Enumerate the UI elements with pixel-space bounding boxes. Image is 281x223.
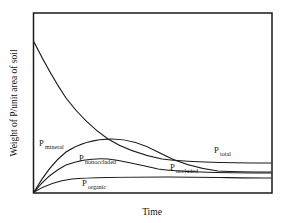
label-p-mineral-base: P — [39, 138, 44, 148]
label-p-total-base: P — [214, 145, 219, 155]
label-p-mineral-sub: mineral — [45, 144, 64, 150]
label-p-occluded-sub: occluded — [176, 168, 198, 174]
figure-background — [0, 0, 281, 223]
y-axis-label: Weight of P/unit area of soil — [9, 49, 19, 157]
label-p-nonoccluded-sub: nonoccluded — [85, 159, 116, 165]
label-p-organic-sub: organic — [88, 184, 106, 190]
label-p-nonoccluded-base: P — [79, 153, 84, 163]
label-p-total-sub: total — [220, 151, 231, 157]
label-p-occluded-base: P — [170, 162, 175, 172]
label-p-organic-base: P — [82, 178, 87, 188]
soil-phosphorus-chart: Weight of P/unit area of soil Time P min… — [0, 0, 281, 223]
x-axis-label: Time — [142, 207, 162, 217]
